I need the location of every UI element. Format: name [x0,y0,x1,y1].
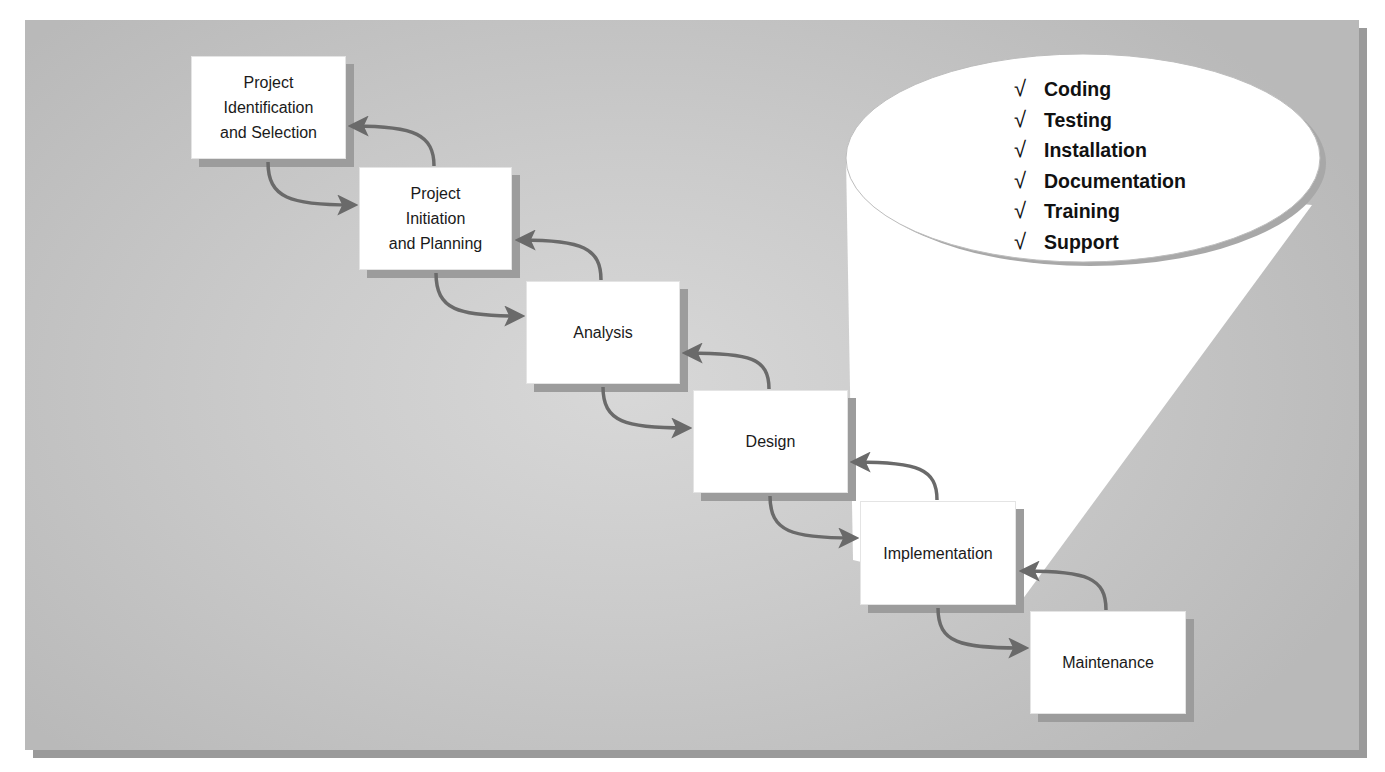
checkmark-icon: √ [1014,196,1044,226]
checklist-item-label: Coding [1044,75,1111,105]
back-arrow-icon [521,240,601,280]
checklist-item: √ Installation [1014,135,1186,166]
checkmark-icon: √ [1014,166,1044,196]
checkmark-icon: √ [1014,227,1044,257]
checklist-item-label: Testing [1044,106,1112,136]
back-arrow-icon [688,353,769,389]
forward-arrow-icon [436,273,519,316]
checklist-item-label: Support [1044,228,1119,258]
back-arrow-icon [1025,571,1106,610]
checklist-item: √ Coding [1014,74,1186,105]
checkmark-icon: √ [1014,105,1044,135]
checklist-item: √ Training [1014,196,1186,227]
checklist-item: √ Testing [1014,105,1186,136]
back-arrow-icon [354,126,434,166]
checkmark-icon: √ [1014,135,1044,165]
checklist-item-label: Documentation [1044,167,1186,197]
checklist-item: √ Documentation [1014,166,1186,197]
checklist-item-label: Training [1044,197,1120,227]
forward-arrow-icon [603,387,686,428]
forward-arrow-icon [938,608,1023,648]
checklist-item: √ Support [1014,227,1186,258]
checkmark-icon: √ [1014,74,1044,104]
implementation-checklist: √ Coding √ Testing √ Installation √ Docu… [1014,74,1186,258]
forward-arrow-icon [268,162,352,205]
back-arrow-icon [856,462,937,500]
checklist-item-label: Installation [1044,136,1147,166]
forward-arrow-icon [770,496,853,538]
